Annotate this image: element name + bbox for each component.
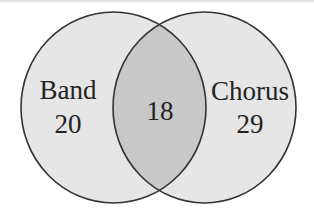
chorus-label: Chorus <box>211 76 289 106</box>
intersection-count: 18 <box>147 96 174 126</box>
band-label: Band <box>40 75 97 105</box>
venn-diagram: Band 20 18 Chorus 29 <box>0 0 314 214</box>
chorus-only-count: 29 <box>237 109 264 139</box>
band-only-count: 20 <box>55 109 82 139</box>
